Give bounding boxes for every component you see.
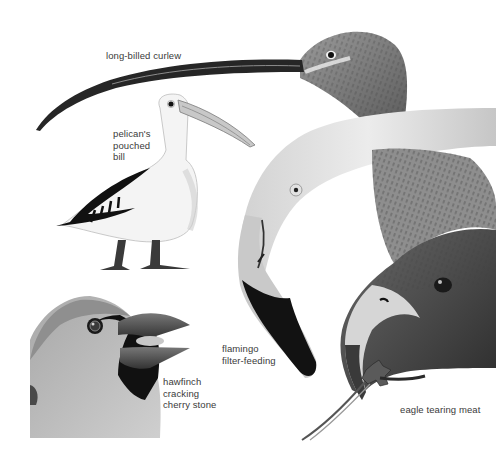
- label-pelicans-pouched-bill: pelican's pouched bill: [113, 128, 151, 163]
- bird-bills-illustration: long-billed curlew pelican's pouched bil…: [0, 0, 496, 462]
- label-flamingo-filter-feeding: flamingo filter-feeding: [222, 343, 276, 366]
- hawfinch-illustration: [30, 296, 190, 438]
- label-eagle-tearing-meat: eagle tearing meat: [400, 404, 481, 416]
- pelican-illustration: [56, 94, 255, 270]
- illustration-canvas: [0, 0, 496, 462]
- label-long-billed-curlew: long-billed curlew: [106, 50, 181, 62]
- curlew-illustration: [36, 32, 407, 131]
- label-hawfinch-cracking-cherry-stone: hawfinch cracking cherry stone: [163, 376, 216, 411]
